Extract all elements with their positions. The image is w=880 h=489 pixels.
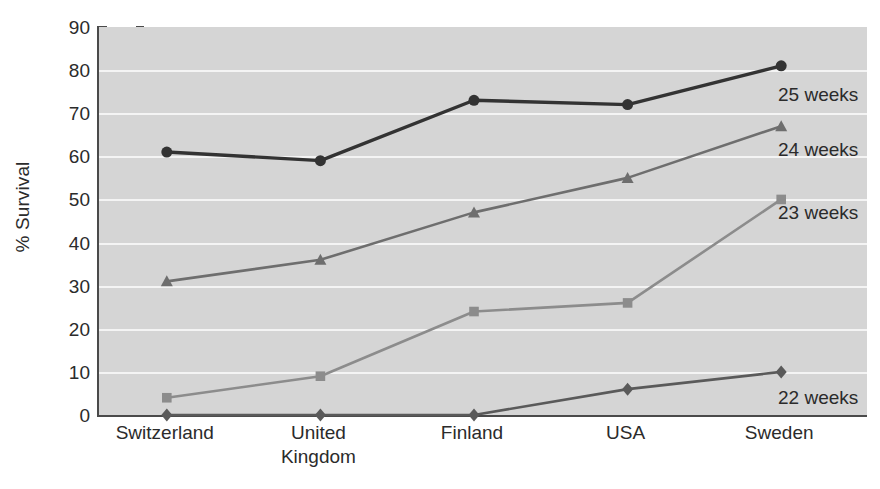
y-tick-label-40: 40 bbox=[44, 233, 90, 252]
y-axis-tick-group: 0102030405060708090 bbox=[44, 0, 90, 489]
series-label-25-weeks: 25 weeks bbox=[778, 85, 858, 104]
y-tick-label-20: 20 bbox=[44, 319, 90, 338]
x-axis-label-line: Sweden bbox=[745, 421, 814, 445]
x-axis-label-line: Switzerland bbox=[116, 421, 214, 445]
data-point-diamond-sweden bbox=[776, 365, 787, 378]
x-axis-label-line: United bbox=[281, 421, 356, 445]
y-tick-label-60: 60 bbox=[44, 147, 90, 166]
y-tick-label-90: 90 bbox=[44, 18, 90, 37]
y-tick-label-30: 30 bbox=[44, 276, 90, 295]
data-point-square-finland bbox=[469, 307, 479, 317]
data-point-diamond-united-kingdom bbox=[315, 409, 326, 422]
series-label-22-weeks: 22 weeks bbox=[778, 388, 858, 407]
data-point-square-united-kingdom bbox=[316, 371, 326, 381]
plot-area bbox=[97, 27, 867, 417]
series-line bbox=[167, 66, 781, 161]
series-24-weeks bbox=[161, 120, 787, 286]
series-line bbox=[167, 199, 781, 397]
x-axis-label-usa: USA bbox=[606, 421, 645, 445]
series-22-weeks bbox=[161, 365, 786, 421]
y-tick-label-10: 10 bbox=[44, 362, 90, 381]
data-point-triangle-sweden bbox=[775, 120, 787, 131]
data-point-circle-united-kingdom bbox=[315, 155, 326, 166]
x-axis-label-line: Finland bbox=[441, 421, 503, 445]
data-point-circle-switzerland bbox=[161, 147, 172, 158]
survival-line-chart: % Survival 0102030405060708090 25 weeks2… bbox=[0, 0, 880, 489]
series-23-weeks bbox=[162, 195, 786, 403]
series-line bbox=[167, 126, 781, 281]
data-point-circle-finland bbox=[469, 95, 480, 106]
series-label-24-weeks: 24 weeks bbox=[778, 140, 858, 159]
x-axis-label-united-kingdom: UnitedKingdom bbox=[281, 421, 356, 469]
x-axis-label-line: USA bbox=[606, 421, 645, 445]
x-axis-label-sweden: Sweden bbox=[745, 421, 814, 445]
data-point-circle-usa bbox=[622, 99, 633, 110]
data-point-square-usa bbox=[623, 298, 633, 308]
data-point-diamond-switzerland bbox=[161, 409, 172, 422]
series-25-weeks bbox=[161, 60, 786, 166]
data-point-diamond-usa bbox=[622, 383, 633, 396]
y-tick-label-70: 70 bbox=[44, 104, 90, 123]
series-label-23-weeks: 23 weeks bbox=[778, 203, 858, 222]
x-axis-label-finland: Finland bbox=[441, 421, 503, 445]
y-tick-label-50: 50 bbox=[44, 190, 90, 209]
data-point-square-switzerland bbox=[162, 393, 172, 403]
x-axis-label-line: Kingdom bbox=[281, 445, 356, 469]
data-point-circle-sweden bbox=[776, 60, 787, 71]
y-axis-title: % Survival bbox=[12, 137, 34, 277]
series-layer bbox=[99, 27, 867, 415]
data-point-diamond-finland bbox=[469, 409, 480, 422]
x-axis-label-switzerland: Switzerland bbox=[116, 421, 214, 445]
y-tick-label-80: 80 bbox=[44, 61, 90, 80]
y-tick-label-0: 0 bbox=[44, 406, 90, 425]
x-axis-label-group: SwitzerlandUnitedKingdomFinlandUSASweden bbox=[97, 421, 865, 487]
